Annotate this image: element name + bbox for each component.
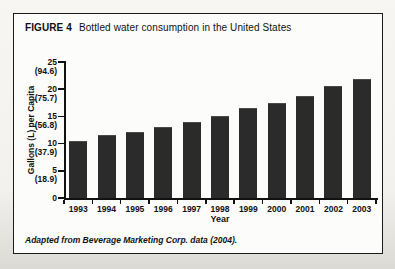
bar-1994 (98, 135, 116, 198)
y-tick-sublabel: (18.9) (14, 175, 57, 184)
x-tick-label: 1996 (148, 204, 178, 214)
x-tick-label: 2003 (347, 204, 377, 214)
x-tick-label: 1994 (92, 204, 122, 214)
y-tick-label: 15(56.8) (14, 112, 57, 130)
bar-2001 (296, 96, 314, 198)
bar-1995 (126, 132, 144, 198)
y-tick-label: 0 (14, 194, 57, 203)
y-tick-sublabel: (94.6) (14, 67, 57, 76)
bar-1993 (69, 141, 87, 198)
y-tick-sublabel: (75.7) (14, 94, 57, 103)
figure-footnote: Adapted from Beverage Marketing Corp. da… (25, 235, 237, 245)
x-tick-label: 1995 (120, 204, 150, 214)
x-axis-title: Year (64, 214, 376, 224)
x-tick-label: 2000 (262, 204, 292, 214)
x-tick-label: 2001 (290, 204, 320, 214)
bar-chart: Gallons (L) per Capita 25(94.6)20(75.7)1… (14, 14, 382, 253)
bar-1997 (183, 122, 201, 198)
x-axis-line (64, 198, 378, 200)
bar-2003 (353, 79, 371, 198)
y-tick-label: 10(37.9) (14, 139, 57, 157)
x-tick-label: 1993 (63, 204, 93, 214)
bar-1998 (211, 116, 229, 198)
y-tick-label: 20(75.7) (14, 85, 57, 103)
figure-panel: FIGURE 4Bottled water consumption in the… (13, 13, 383, 254)
bar-1999 (239, 108, 257, 198)
x-tick-label: 1997 (177, 204, 207, 214)
y-tick-sublabel: (37.9) (14, 148, 57, 157)
bar-1996 (154, 127, 172, 198)
y-tick-label: 5(18.9) (14, 166, 57, 184)
plot-area (64, 62, 376, 198)
bar-2000 (268, 103, 286, 198)
bar-2002 (324, 86, 342, 198)
y-tick-label: 25(94.6) (14, 58, 57, 76)
x-tick-label: 2002 (318, 204, 348, 214)
x-tick-label: 1998 (205, 204, 235, 214)
x-tick-label: 1999 (233, 204, 263, 214)
y-tick-sublabel: (56.8) (14, 121, 57, 130)
